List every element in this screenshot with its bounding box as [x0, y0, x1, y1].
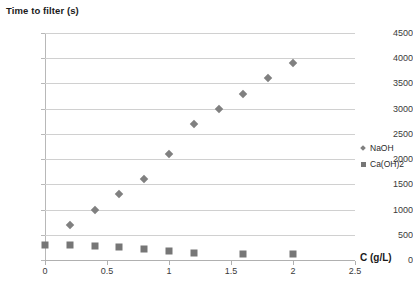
data-point-NaOH [289, 59, 297, 67]
y-tick-label-500: 500 [373, 230, 413, 240]
diamond-marker-icon [360, 145, 366, 151]
data-point-Ca(OH)2 [290, 251, 297, 258]
x-tick-mark-2.5 [355, 261, 356, 265]
gridline-y-4000 [45, 58, 355, 59]
data-point-Ca(OH)2 [190, 249, 197, 256]
data-point-Ca(OH)2 [141, 245, 148, 252]
x-tick-label-0.5: 0.5 [101, 266, 114, 276]
y-tick-label-4000: 4000 [373, 53, 413, 63]
data-point-Ca(OH)2 [240, 251, 247, 258]
x-tick-label-1.5: 1.5 [225, 266, 238, 276]
legend-square-icon [358, 162, 368, 167]
chart-title: Time to filter (s) [6, 5, 79, 16]
x-axis-line [45, 260, 355, 261]
gridline-y-1500 [45, 184, 355, 185]
legend-item-NaOH[interactable]: NaOH [358, 140, 413, 156]
data-point-NaOH [165, 150, 173, 158]
data-point-Ca(OH)2 [91, 243, 98, 250]
legend-label: Ca(OH)2 [370, 159, 404, 169]
data-point-Ca(OH)2 [42, 241, 49, 248]
y-tick-label-4500: 4500 [373, 28, 413, 38]
x-tick-label-2: 2 [290, 266, 295, 276]
gridline-y-3500 [45, 83, 355, 84]
x-tick-mark-1.5 [231, 261, 232, 265]
gridline-y-500 [45, 235, 355, 236]
gridline-y-2500 [45, 134, 355, 135]
y-tick-label-3000: 3000 [373, 104, 413, 114]
x-tick-mark-0.5 [107, 261, 108, 265]
data-point-NaOH [264, 74, 272, 82]
data-point-NaOH [115, 190, 123, 198]
data-point-Ca(OH)2 [166, 247, 173, 254]
chart-legend: NaOHCa(OH)2 [358, 140, 413, 172]
x-tick-mark-2 [293, 261, 294, 265]
gridline-y-4500 [45, 33, 355, 34]
x-tick-label-0: 0 [42, 266, 47, 276]
x-axis-title: C (g/L) [360, 252, 392, 263]
data-point-NaOH [214, 104, 222, 112]
x-tick-mark-0 [45, 261, 46, 265]
data-point-NaOH [140, 175, 148, 183]
y-tick-label-1000: 1000 [373, 205, 413, 215]
chart-container: Time to filter (s) 050010001500200025003… [0, 0, 413, 297]
data-point-NaOH [90, 205, 98, 213]
data-point-NaOH [239, 89, 247, 97]
data-point-Ca(OH)2 [116, 244, 123, 251]
y-tick-label-1500: 1500 [373, 179, 413, 189]
x-tick-mark-1 [169, 261, 170, 265]
data-point-Ca(OH)2 [66, 242, 73, 249]
data-point-NaOH [66, 220, 74, 228]
gridline-y-3000 [45, 109, 355, 110]
plot-area [45, 33, 355, 260]
y-tick-label-2500: 2500 [373, 129, 413, 139]
legend-item-Ca(OH)2[interactable]: Ca(OH)2 [358, 156, 413, 172]
legend-diamond-icon [358, 146, 368, 150]
data-point-NaOH [190, 120, 198, 128]
gridline-y-2000 [45, 159, 355, 160]
legend-label: NaOH [370, 143, 394, 153]
y-tick-label-3500: 3500 [373, 78, 413, 88]
x-tick-label-2.5: 2.5 [349, 266, 362, 276]
square-marker-icon [361, 162, 366, 167]
x-tick-label-1: 1 [166, 266, 171, 276]
